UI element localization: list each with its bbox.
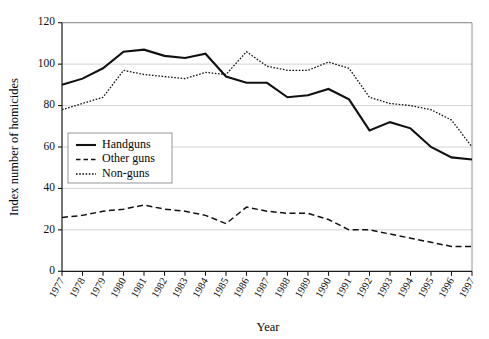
x-tick-label: 1991 bbox=[334, 276, 354, 300]
x-axis bbox=[62, 271, 472, 276]
x-tick-label: 1981 bbox=[129, 276, 149, 300]
x-tick-label: 1980 bbox=[108, 276, 128, 300]
grid-lines bbox=[62, 23, 472, 230]
y-axis bbox=[58, 23, 62, 272]
x-tick-label: 1990 bbox=[313, 276, 333, 300]
x-tick-label: 1994 bbox=[395, 275, 415, 299]
y-tick-label: 120 bbox=[38, 15, 56, 27]
x-tick-label: 1982 bbox=[149, 276, 169, 300]
legend-label-handguns: Handguns bbox=[102, 137, 151, 151]
legend-label-other-guns: Other guns bbox=[102, 151, 155, 165]
x-tick-label: 1988 bbox=[272, 276, 292, 300]
y-axis-title: Index number of homicides bbox=[7, 78, 21, 216]
y-tick-label: 80 bbox=[44, 98, 56, 110]
y-tick-label: 60 bbox=[44, 140, 56, 152]
x-tick-label: 1983 bbox=[170, 276, 190, 300]
x-tick-label: 1986 bbox=[231, 276, 251, 300]
x-tick-label: 1987 bbox=[252, 276, 272, 300]
x-tick-labels: 1977197819791980198119821983198419851986… bbox=[47, 275, 477, 299]
x-tick-label: 1993 bbox=[375, 276, 395, 300]
y-tick-label: 0 bbox=[49, 264, 55, 276]
legend-label-non-guns: Non-guns bbox=[102, 166, 150, 180]
x-tick-label: 1989 bbox=[293, 276, 313, 300]
x-tick-label: 1979 bbox=[88, 276, 108, 300]
x-tick-label: 1995 bbox=[416, 276, 436, 300]
x-tick-label: 1996 bbox=[436, 276, 456, 300]
x-tick-label: 1978 bbox=[67, 276, 87, 300]
x-tick-label: 1992 bbox=[354, 276, 374, 300]
y-tick-label: 40 bbox=[44, 181, 56, 193]
y-tick-label: 20 bbox=[44, 223, 56, 235]
chart-container: 020406080100120 197719781979198019811982… bbox=[0, 0, 489, 339]
x-axis-title: Year bbox=[256, 320, 280, 334]
chart-legend: HandgunsOther gunsNon-guns bbox=[68, 133, 172, 183]
x-tick-label: 1977 bbox=[47, 276, 67, 300]
x-tick-label: 1984 bbox=[190, 275, 210, 299]
x-tick-label: 1985 bbox=[211, 276, 231, 300]
y-tick-label: 100 bbox=[38, 57, 56, 69]
y-tick-labels: 020406080100120 bbox=[38, 15, 56, 276]
x-tick-label: 1997 bbox=[457, 276, 477, 300]
line-chart: 020406080100120 197719781979198019811982… bbox=[0, 0, 489, 339]
series-line-other-guns bbox=[62, 205, 472, 246]
